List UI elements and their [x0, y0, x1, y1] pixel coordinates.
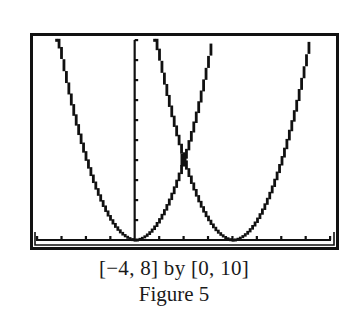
intersection-point: [181, 154, 187, 166]
y-tick: [135, 39, 139, 41]
x-tick: [158, 236, 160, 240]
x-tick: [256, 236, 258, 240]
y-tick: [135, 199, 139, 201]
x-tick: [183, 236, 185, 240]
x-tick: [36, 236, 38, 240]
y-tick: [135, 99, 139, 101]
plotted-curves: [55, 39, 310, 242]
y-tick: [135, 119, 139, 121]
x-tick: [329, 236, 331, 240]
window-settings-caption: [−4, 8] by [0, 10]: [0, 256, 348, 281]
x-tick: [207, 236, 209, 240]
y-tick: [135, 139, 139, 141]
x-tick: [85, 236, 87, 240]
x-tick: [60, 236, 62, 240]
y-tick: [135, 79, 139, 81]
calculator-graph-figure: [−4, 8] by [0, 10] Figure 5: [0, 0, 348, 326]
x-tick: [280, 236, 282, 240]
screen-frame: [32, 35, 338, 249]
figure-caption: Figure 5: [0, 282, 348, 307]
y-tick: [135, 59, 139, 61]
x-tick: [109, 236, 111, 240]
curve-2: [153, 39, 310, 242]
y-tick: [135, 159, 139, 161]
y-tick: [135, 179, 139, 181]
y-tick: [135, 219, 139, 221]
x-tick: [305, 236, 307, 240]
